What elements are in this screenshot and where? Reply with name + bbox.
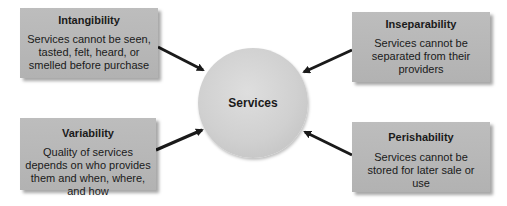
- variability-box: Variability Quality of services depends …: [20, 118, 156, 190]
- inseparability-box: Inseparability Services cannot be separa…: [352, 12, 490, 82]
- perishability-description: Services cannot be stored for later sale…: [352, 151, 490, 190]
- inseparability-title: Inseparability: [352, 18, 490, 30]
- variability-title: Variability: [20, 127, 156, 139]
- intangibility-title: Intangibility: [20, 14, 158, 26]
- services-circle: Services: [198, 48, 308, 158]
- arrow-intangibility: [158, 47, 203, 70]
- arrow-variability: [156, 130, 202, 150]
- inseparability-description: Services cannot be separated from their …: [352, 37, 490, 76]
- variability-description: Quality of services depends on who provi…: [20, 146, 156, 198]
- arrow-inseparability: [304, 50, 352, 72]
- perishability-title: Perishability: [352, 131, 490, 143]
- perishability-box: Perishability Services cannot be stored …: [352, 122, 490, 192]
- services-label: Services: [228, 96, 277, 110]
- arrow-perishability: [305, 132, 352, 155]
- intangibility-box: Intangibility Services cannot be seen, t…: [20, 8, 158, 78]
- intangibility-description: Services cannot be seen, tasted, felt, h…: [20, 33, 158, 72]
